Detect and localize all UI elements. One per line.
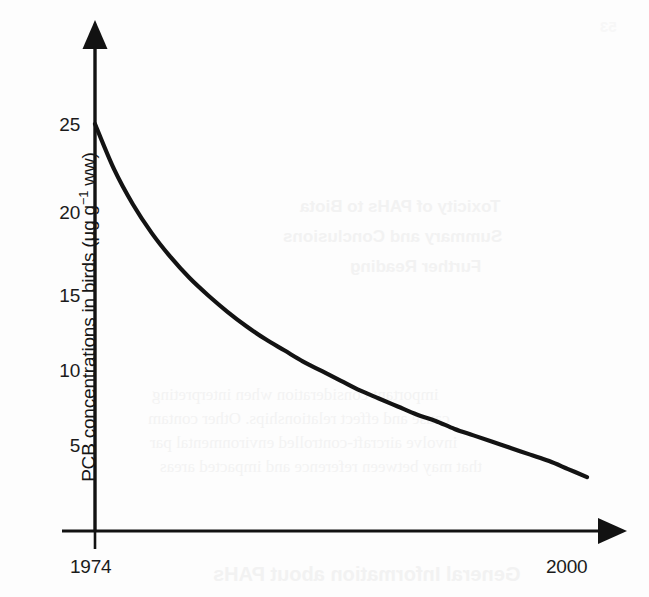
- x-axis-arrow-icon: [598, 518, 627, 544]
- y-tick-label-20: 20: [38, 202, 80, 224]
- y-tick-label-15: 15: [38, 285, 80, 307]
- y-axis-title-prefix: PCB concentrations in birds (µg g: [78, 205, 99, 482]
- y-tick-label-10: 10: [38, 360, 80, 382]
- y-tick-label-25: 25: [38, 114, 80, 136]
- y-tick-label-5: 5: [38, 435, 80, 457]
- y-axis-title-exponent: −1: [76, 191, 91, 205]
- x-tick-label-1974: 1974: [70, 556, 111, 578]
- x-tick-label-2000: 2000: [546, 556, 587, 578]
- y-axis-title-suffix: ww): [78, 152, 99, 190]
- decay-curve-line: [95, 124, 587, 477]
- y-axis-title: PCB concentrations in birds (µg g−1 ww): [76, 107, 100, 527]
- figure-page: 53 Toxicity of PAHs to Biota Summary and…: [0, 0, 649, 597]
- y-axis-arrow-icon: [83, 20, 108, 49]
